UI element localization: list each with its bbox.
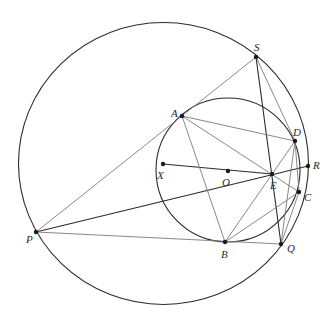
point-b: [223, 240, 227, 244]
segment-xe: [163, 164, 272, 174]
segment-qd: [281, 141, 295, 244]
point-s: [254, 55, 258, 59]
segment-bc: [225, 192, 299, 242]
label-c: C: [304, 192, 311, 203]
label-q: Q: [287, 243, 295, 254]
label-r: R: [313, 160, 320, 171]
label-o: O: [222, 177, 230, 188]
label-e: E: [270, 180, 277, 191]
point-q: [279, 242, 283, 246]
point-p: [34, 230, 38, 234]
segment-ac: [182, 116, 299, 192]
geometry-diagram: [0, 0, 335, 319]
point-c: [297, 190, 301, 194]
point-o: [226, 169, 230, 173]
label-p: P: [26, 234, 33, 245]
label-d: D: [293, 127, 301, 138]
segment-qc: [281, 192, 299, 244]
segment-ad: [182, 116, 295, 141]
segment-pq: [36, 232, 281, 244]
point-x: [161, 162, 165, 166]
label-b: B: [221, 249, 228, 260]
segment-bd: [225, 141, 295, 242]
point-a: [180, 114, 184, 118]
label-x: X: [157, 170, 164, 181]
segment-sq: [256, 57, 281, 244]
point-r: [306, 164, 310, 168]
label-a: A: [171, 108, 178, 119]
point-e: [270, 172, 274, 176]
segment-ab: [182, 116, 225, 242]
label-s: S: [254, 42, 260, 53]
point-d: [293, 139, 297, 143]
